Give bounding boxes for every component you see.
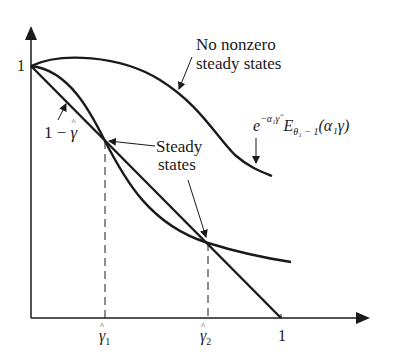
- arrow-no-steady-states-icon: [179, 57, 192, 89]
- label-steady-states-top: steady states: [196, 55, 281, 72]
- label-steady: Steady: [156, 138, 202, 155]
- x-axis-arrow-icon: [356, 312, 370, 324]
- x-tick-gamma2: γ2: [200, 328, 211, 344]
- arrow-steady-state-1-icon: [109, 141, 155, 146]
- formula-exponent: −α₁γ̂: [260, 113, 279, 124]
- y-axis-tick-one: 1: [17, 58, 25, 74]
- formula-func: E: [284, 117, 294, 134]
- diagram-canvas: 1 No nonzero steady states 1 − γ Steady …: [0, 0, 411, 360]
- x-tick-gamma2-sub: 2: [206, 336, 211, 347]
- label-one-minus-prefix: 1 −: [44, 123, 66, 142]
- label-one-minus-gamma: 1 − γ: [44, 124, 77, 141]
- formula-func-sub: θ₁ − 1: [293, 126, 318, 137]
- y-axis-arrow-icon: [25, 26, 37, 40]
- x-tick-gamma1-sub: 1: [105, 336, 110, 347]
- line-one-minus-gamma: [31, 66, 281, 318]
- arrow-one-minus-gamma-icon: [58, 104, 66, 120]
- x-tick-gamma1: γ1: [99, 328, 110, 344]
- curve-no-steady-states: [31, 58, 272, 176]
- formula-arg: (α₁γ): [318, 117, 349, 134]
- x-tick-one: 1: [278, 328, 286, 344]
- label-gamma-var: γ: [71, 124, 78, 141]
- label-no-nonzero: No nonzero: [196, 36, 276, 53]
- formula-label: e−α₁γ̂ Eθ₁ − 1(α₁γ): [253, 118, 349, 134]
- label-states: states: [158, 156, 196, 173]
